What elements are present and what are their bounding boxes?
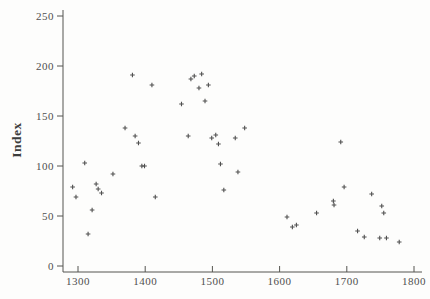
y-axis-title: Index (9, 122, 25, 158)
data-point (130, 73, 135, 78)
data-point (294, 223, 299, 228)
x-tick-label: 1600 (268, 275, 292, 287)
data-point (379, 204, 384, 209)
data-point (362, 235, 367, 240)
data-point (285, 215, 290, 220)
data-point (136, 141, 141, 146)
x-tick-label: 1500 (200, 275, 224, 287)
data-point (192, 74, 197, 79)
data-point (142, 164, 147, 169)
data-point (377, 236, 382, 241)
data-point (290, 225, 295, 230)
data-point (338, 140, 343, 145)
plot-area: 050100150200250130014001500160017001800 (0, 0, 430, 299)
x-tick-label: 1400 (133, 275, 157, 287)
x-tick-label: 1700 (335, 275, 359, 287)
data-point (133, 134, 138, 139)
y-tick-label: 250 (36, 10, 54, 22)
y-tick-label: 50 (42, 210, 54, 222)
data-point (197, 86, 202, 91)
data-point (203, 99, 208, 104)
data-point (216, 142, 221, 147)
data-point (314, 211, 319, 216)
data-point (397, 240, 402, 245)
data-point (179, 102, 184, 107)
data-point (74, 195, 79, 200)
data-point (342, 185, 347, 190)
data-point (153, 195, 158, 200)
y-tick-label: 200 (36, 60, 54, 72)
data-point (86, 232, 91, 237)
scatter-chart-figure: Index 0501001502002501300140015001600170… (0, 0, 430, 299)
y-tick-label: 150 (36, 110, 54, 122)
data-point (233, 136, 238, 141)
x-tick-label: 1300 (66, 275, 90, 287)
data-point (355, 229, 360, 234)
data-point (331, 199, 336, 204)
data-point (150, 83, 155, 88)
data-point (82, 161, 87, 166)
x-tick-label: 1800 (402, 275, 426, 287)
y-tick-label: 0 (48, 260, 54, 272)
data-point (199, 72, 204, 77)
data-point (70, 185, 75, 190)
data-point (186, 134, 191, 139)
data-point (111, 172, 116, 177)
data-point (209, 136, 214, 141)
data-point (189, 77, 194, 82)
data-point (218, 162, 223, 167)
data-point (222, 188, 227, 193)
data-point (384, 236, 389, 241)
data-point (99, 191, 104, 196)
data-point (94, 182, 99, 187)
data-point (213, 133, 218, 138)
data-point (96, 187, 101, 192)
data-point (206, 83, 211, 88)
data-point (332, 203, 337, 208)
data-point (369, 192, 374, 197)
data-point (381, 211, 386, 216)
data-point (242, 126, 247, 131)
data-point (123, 126, 128, 131)
data-point (236, 170, 241, 175)
y-tick-label: 100 (36, 160, 54, 172)
data-point (90, 208, 95, 213)
